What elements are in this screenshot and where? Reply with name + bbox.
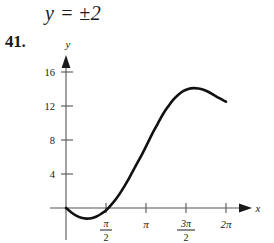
y-tick-label-12: 12 (45, 101, 56, 112)
x-tick-pi-over-2-denominator: 2 (104, 232, 109, 243)
y-axis-ticks: 4 8 12 16 (45, 67, 74, 180)
x-tick-pi-over-2-numerator: π (103, 218, 109, 229)
x-tick-label-2pi: 2π (220, 218, 232, 230)
x-tick-label-3pi-over-2: 3π 2 (177, 218, 195, 243)
y-axis-label: y (65, 38, 71, 50)
axes-group (50, 55, 252, 240)
x-axis-arrowhead (239, 204, 252, 213)
x-axis-ticks: π 2 π 3π 2 2π (100, 203, 232, 243)
x-tick-3pi-over-2-denominator: 2 (184, 232, 189, 243)
graph-figure: 4 8 12 16 π 2 π 3π 2 2π x y (0, 0, 274, 243)
x-tick-label-pi: π (143, 218, 149, 230)
y-tick-label-4: 4 (50, 169, 56, 180)
x-tick-3pi-over-2-numerator: 3π (180, 218, 192, 229)
x-tick-label-pi-over-2: π 2 (100, 218, 112, 243)
y-tick-label-8: 8 (50, 135, 55, 146)
function-curve (66, 88, 226, 219)
x-axis-label: x (255, 202, 261, 214)
y-axis-arrowhead (62, 55, 71, 68)
y-tick-label-16: 16 (45, 67, 56, 78)
